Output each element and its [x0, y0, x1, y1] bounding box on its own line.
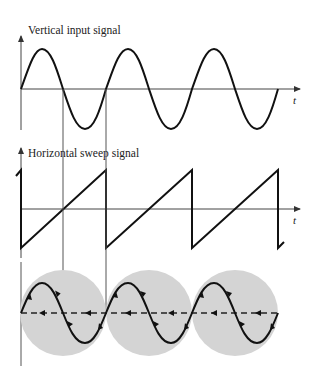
display-panel: [20, 270, 278, 356]
vertical-t-label: t: [293, 94, 297, 106]
horizontal-signal-panel: Horizontal sweep signal t: [16, 147, 300, 258]
horizontal-t-label: t: [293, 214, 297, 226]
oscilloscope-sweep-diagram: Vertical input signal t Horizontal sweep…: [0, 0, 314, 385]
horizontal-signal-title: Horizontal sweep signal: [28, 147, 139, 160]
vertical-signal-title: Vertical input signal: [28, 24, 121, 37]
